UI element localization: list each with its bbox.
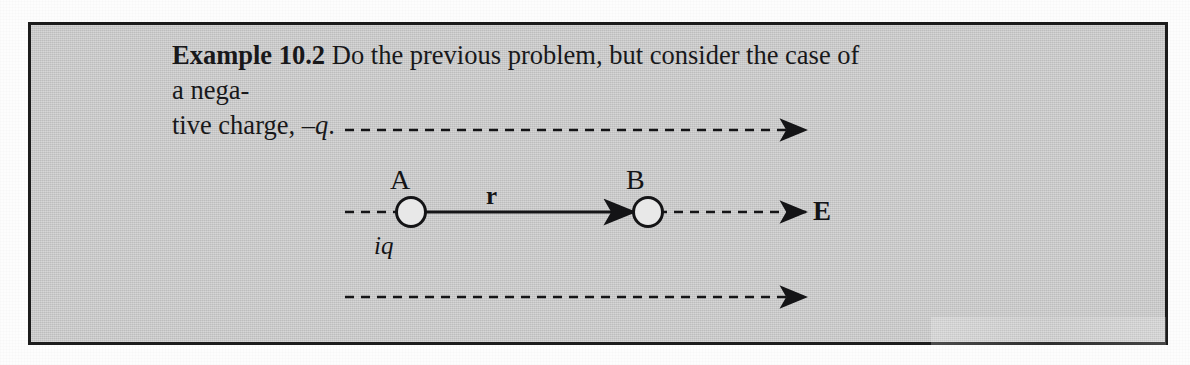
- vector-r-label: r: [486, 183, 497, 208]
- example-statement: Example 10.2 Do the previous problem, bu…: [172, 38, 872, 143]
- point-b-label: B: [626, 166, 645, 194]
- example-line2-math: –q: [302, 110, 329, 140]
- point-a-label: A: [390, 166, 410, 194]
- field-e-label: E: [813, 198, 831, 225]
- example-line2-suffix: .: [328, 110, 335, 140]
- charge-label: iq: [374, 233, 393, 258]
- scan-artifact: [931, 317, 1166, 347]
- example-number-label: Example 10.2: [172, 40, 325, 70]
- scanned-page: Example 10.2 Do the previous problem, bu…: [0, 0, 1190, 365]
- example-line2-prefix: tive charge,: [172, 110, 302, 140]
